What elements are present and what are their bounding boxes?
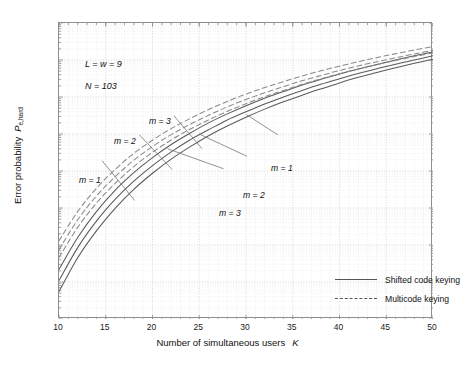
leader-line-5 (199, 134, 247, 156)
curve-label-multicode-m2: m = 2 (114, 136, 136, 146)
legend: Shifted code keying Multicode keying (335, 270, 465, 308)
legend-label-multicode: Multicode keying (385, 294, 449, 304)
plot-area: L = w = 9 N = 103 m = 1 m = 2 m = 3 m = … (58, 22, 432, 318)
annotation-params-1: L = w = 9 (85, 59, 122, 69)
curve-label-shifted-m3: m = 3 (219, 208, 241, 218)
leader-line-6 (167, 149, 223, 169)
x-axis-symbol: K (292, 337, 298, 348)
y-axis-symbol: Pe,hard (12, 107, 23, 132)
x-tick-label: 45 (370, 322, 400, 332)
x-tick-label: 40 (324, 322, 354, 332)
y-axis-title-text: Error probability (12, 137, 23, 204)
legend-item-multicode: Multicode keying (335, 289, 465, 308)
leader-line-3 (174, 116, 202, 149)
leader-line-4 (246, 114, 278, 134)
curve-label-shifted-m2: m = 2 (243, 190, 265, 200)
curve-label-shifted-m1: m = 1 (271, 163, 293, 173)
x-tick-label: 10 (43, 322, 73, 332)
annotation-params-2: N = 103 (85, 81, 117, 91)
x-tick-label: 20 (137, 322, 167, 332)
legend-item-shifted: Shifted code keying (335, 270, 465, 289)
legend-key-solid-line (335, 279, 377, 281)
x-tick-label: 35 (277, 322, 307, 332)
x-axis-title-text: Number of simultaneous users (156, 337, 285, 348)
x-tick-label: 15 (90, 322, 120, 332)
legend-key-dashed-line (335, 298, 377, 300)
x-tick-label: 25 (183, 322, 213, 332)
legend-label-shifted: Shifted code keying (385, 275, 460, 285)
x-tick-label: 30 (230, 322, 260, 332)
curve-label-multicode-m1: m = 1 (79, 175, 101, 185)
y-axis-title: Error probabilityPe,hard (12, 46, 23, 266)
x-axis-title: Number of simultaneous usersK (0, 337, 455, 348)
x-tick-label: 50 (417, 322, 447, 332)
curve-label-multicode-m3: m = 3 (149, 116, 171, 126)
